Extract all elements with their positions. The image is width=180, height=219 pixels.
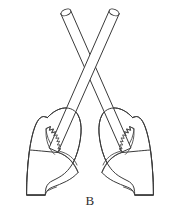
figure-container: B bbox=[0, 0, 180, 219]
figure-caption: B bbox=[0, 193, 180, 208]
line-drawing bbox=[0, 0, 180, 219]
